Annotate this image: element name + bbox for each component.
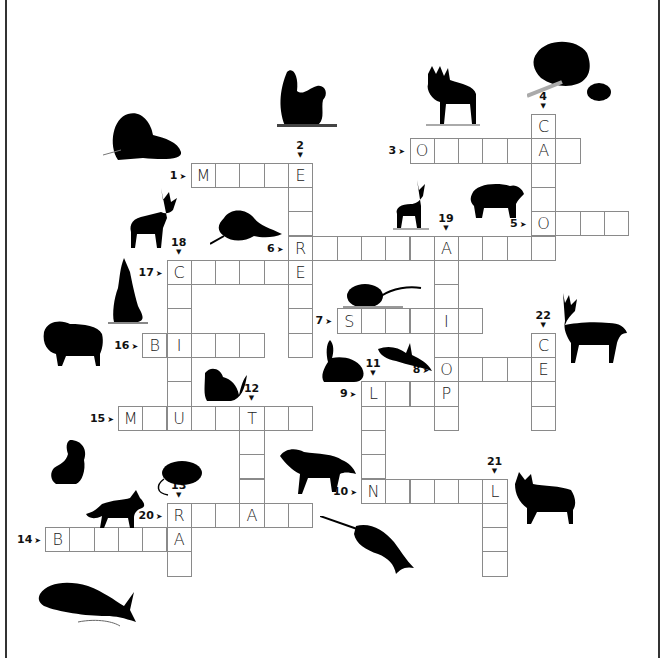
grid-cell[interactable] [191,406,216,431]
grid-cell[interactable]: O [410,138,435,163]
grid-cell[interactable] [288,284,313,309]
grid-cell[interactable] [580,211,605,236]
grid-cell[interactable] [482,357,507,382]
grid-cell[interactable] [507,357,532,382]
grid-cell[interactable]: E [288,260,313,285]
grid-cell[interactable] [94,527,119,552]
grid-cell[interactable] [191,503,216,528]
grid-cell[interactable]: R [167,503,192,528]
grid-cell[interactable] [531,236,556,261]
grid-cell[interactable] [167,308,192,333]
grid-cell[interactable] [555,138,580,163]
grid-cell[interactable] [264,503,289,528]
grid-cell[interactable] [142,527,167,552]
grid-cell[interactable] [482,551,507,576]
grid-cell[interactable] [507,138,532,163]
grid-cell[interactable]: A [239,503,264,528]
grid-cell[interactable] [458,236,483,261]
grid-cell[interactable]: B [142,333,167,358]
grid-cell[interactable]: C [531,114,556,139]
grid-cell[interactable] [118,527,143,552]
grid-cell[interactable] [434,138,459,163]
grid-cell[interactable]: M [191,163,216,188]
grid-cell[interactable] [361,454,386,479]
grid-cell[interactable] [434,406,459,431]
grid-cell[interactable] [191,260,216,285]
grid-cell[interactable]: O [531,211,556,236]
grid-cell[interactable] [215,406,240,431]
grid-cell[interactable] [142,406,167,431]
grid-cell[interactable] [434,479,459,504]
grid-cell[interactable] [239,454,264,479]
grid-cell[interactable]: O [434,357,459,382]
grid-cell[interactable]: E [288,163,313,188]
grid-cell[interactable] [458,357,483,382]
grid-cell[interactable] [288,187,313,212]
grid-cell[interactable]: R [288,236,313,261]
grid-cell[interactable] [288,333,313,358]
grid-cell[interactable]: M [118,406,143,431]
grid-cell[interactable] [239,479,264,504]
grid-cell[interactable] [434,284,459,309]
grid-cell[interactable] [555,211,580,236]
grid-cell[interactable] [507,236,532,261]
grid-cell[interactable] [482,236,507,261]
grid-cell[interactable] [361,430,386,455]
grid-cell[interactable] [239,430,264,455]
grid-cell[interactable]: C [167,260,192,285]
grid-cell[interactable]: N [361,479,386,504]
grid-cell[interactable] [385,381,410,406]
grid-cell[interactable] [434,333,459,358]
grid-cell[interactable] [215,260,240,285]
grid-cell[interactable]: A [434,236,459,261]
grid-cell[interactable] [434,260,459,285]
grid-cell[interactable] [69,527,94,552]
grid-cell[interactable]: A [531,138,556,163]
grid-cell[interactable] [410,381,435,406]
grid-cell[interactable] [264,163,289,188]
grid-cell[interactable] [312,236,337,261]
grid-cell[interactable] [385,236,410,261]
grid-cell[interactable] [215,503,240,528]
grid-cell[interactable] [482,138,507,163]
grid-cell[interactable] [458,479,483,504]
grid-cell[interactable]: P [434,381,459,406]
grid-cell[interactable] [337,236,362,261]
grid-cell[interactable] [288,406,313,431]
grid-cell[interactable] [288,503,313,528]
grid-cell[interactable] [361,406,386,431]
grid-cell[interactable] [531,406,556,431]
grid-cell[interactable] [167,551,192,576]
grid-cell[interactable] [458,138,483,163]
grid-cell[interactable] [264,406,289,431]
grid-cell[interactable] [410,479,435,504]
grid-cell[interactable] [191,333,216,358]
grid-cell[interactable] [288,211,313,236]
grid-cell[interactable]: U [167,406,192,431]
grid-cell[interactable] [239,260,264,285]
grid-cell[interactable] [385,308,410,333]
grid-cell[interactable] [167,381,192,406]
grid-cell[interactable] [239,163,264,188]
grid-cell[interactable]: A [167,527,192,552]
grid-cell[interactable] [361,308,386,333]
grid-cell[interactable] [531,187,556,212]
grid-cell[interactable] [482,503,507,528]
grid-cell[interactable] [458,308,483,333]
grid-cell[interactable] [264,260,289,285]
grid-cell[interactable] [167,284,192,309]
grid-cell[interactable] [410,236,435,261]
grid-cell[interactable] [531,381,556,406]
grid-cell[interactable] [239,333,264,358]
grid-cell[interactable]: I [167,333,192,358]
grid-cell[interactable] [215,163,240,188]
grid-cell[interactable] [482,527,507,552]
grid-cell[interactable]: L [482,479,507,504]
grid-cell[interactable] [385,479,410,504]
grid-cell[interactable] [288,308,313,333]
grid-cell[interactable] [215,333,240,358]
grid-cell[interactable] [410,308,435,333]
grid-cell[interactable]: S [337,308,362,333]
grid-cell[interactable]: I [434,308,459,333]
grid-cell[interactable] [167,357,192,382]
